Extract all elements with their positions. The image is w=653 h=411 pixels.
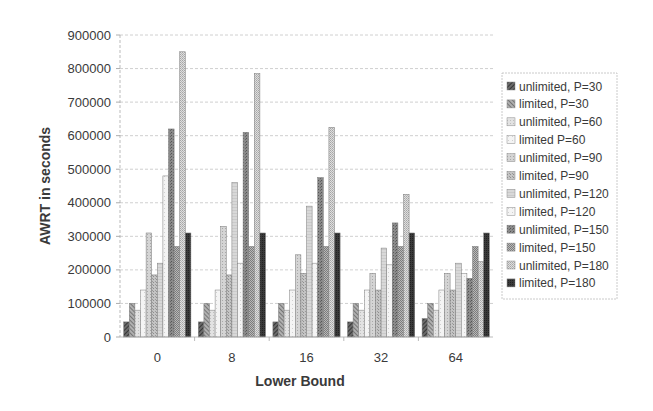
bar [174, 246, 180, 337]
legend-swatch [507, 154, 515, 162]
bar [312, 263, 318, 337]
legend-swatch [507, 279, 515, 287]
bar [364, 290, 370, 337]
y-tick-label: 900000 [68, 28, 111, 43]
bar [238, 263, 244, 337]
chart: 0100000200000300000400000500000600000700… [0, 0, 653, 411]
legend-label: unlimited, P=180 [519, 259, 609, 273]
legend-label: limited, P=120 [519, 205, 596, 219]
bar [318, 178, 324, 337]
bar [348, 322, 354, 337]
bar [124, 322, 130, 337]
legend-item: unlimited, P=120 [507, 187, 609, 201]
legend-item: unlimited, P=90 [507, 151, 602, 165]
legend-swatch [507, 118, 515, 126]
bar [473, 246, 479, 337]
bar [392, 223, 398, 337]
bar [381, 248, 387, 337]
bar [221, 226, 227, 337]
legend-swatch [507, 225, 515, 233]
bar [295, 255, 301, 337]
bar [129, 303, 135, 337]
legend-label: limited, P=90 [519, 169, 589, 183]
legend-item: unlimited, P=150 [507, 223, 609, 237]
y-tick-label: 300000 [68, 229, 111, 244]
bar [260, 233, 266, 337]
bar [445, 273, 451, 337]
bar [422, 319, 428, 337]
legend-item: limited, P=150 [507, 241, 596, 255]
bar-group-16 [273, 127, 340, 337]
legend: unlimited, P=30limited, P=30unlimited, P… [502, 73, 617, 299]
y-tick-label: 500000 [68, 162, 111, 177]
bar [461, 273, 467, 337]
legend-label: limited, P=180 [519, 276, 596, 290]
legend-label: unlimited, P=30 [519, 80, 602, 94]
bar [198, 322, 204, 337]
bar [185, 233, 191, 337]
bar [243, 132, 249, 337]
bar [467, 278, 473, 337]
bar [301, 273, 307, 337]
legend-item: unlimited, P=180 [507, 259, 609, 273]
legend-swatch [507, 207, 515, 215]
x-tick-label: 32 [374, 350, 388, 365]
legend-swatch [507, 261, 515, 269]
bar [249, 246, 255, 337]
bar-group-8 [198, 74, 265, 337]
legend-label: limited, P=30 [519, 97, 589, 111]
bar [146, 233, 152, 337]
bar [204, 303, 210, 337]
y-axis: 0100000200000300000400000500000600000700… [68, 28, 120, 345]
legend-item: limited, P=30 [507, 97, 589, 111]
bar [254, 74, 260, 337]
x-tick-label: 16 [299, 350, 313, 365]
bar [169, 129, 175, 337]
legend-swatch [507, 172, 515, 180]
x-tick-label: 64 [448, 350, 462, 365]
bar [215, 290, 221, 337]
legend-swatch [507, 136, 515, 144]
legend-item: limited, P=180 [507, 276, 596, 290]
bar [210, 310, 216, 337]
legend-label: unlimited, P=60 [519, 115, 602, 129]
legend-item: unlimited, P=60 [507, 115, 602, 129]
bar [370, 273, 376, 337]
legend-item: unlimited, P=30 [507, 80, 602, 94]
legend-swatch [507, 243, 515, 251]
bar [307, 206, 313, 337]
y-tick-label: 400000 [68, 195, 111, 210]
bars [124, 52, 490, 337]
legend-label: limited, P=150 [519, 241, 596, 255]
bar [398, 246, 404, 337]
y-axis-title: AWRT in seconds [37, 127, 53, 245]
bar [273, 322, 279, 337]
y-tick-label: 200000 [68, 262, 111, 277]
bar [439, 290, 445, 337]
bar [152, 275, 158, 337]
y-tick-label: 0 [104, 330, 111, 345]
y-tick-label: 700000 [68, 95, 111, 110]
legend-item: limited, P=120 [507, 205, 596, 219]
bar [484, 233, 490, 337]
bar [279, 303, 285, 337]
legend-label: unlimited, P=120 [519, 187, 609, 201]
bar [335, 233, 341, 337]
bar [353, 303, 359, 337]
bar [323, 246, 329, 337]
bar [387, 265, 393, 337]
bar [478, 262, 484, 338]
legend-item: limited P=60 [507, 133, 586, 147]
legend-item: limited, P=90 [507, 169, 589, 183]
bar [376, 290, 382, 337]
x-tick-label: 0 [154, 350, 161, 365]
bar [428, 303, 434, 337]
legend-swatch [507, 100, 515, 108]
legend-swatch [507, 82, 515, 90]
x-tick-label: 8 [228, 350, 235, 365]
bar [284, 310, 290, 337]
bar [141, 290, 147, 337]
bar [135, 310, 141, 337]
x-axis-title: Lower Bound [255, 373, 344, 389]
bar [359, 310, 365, 337]
